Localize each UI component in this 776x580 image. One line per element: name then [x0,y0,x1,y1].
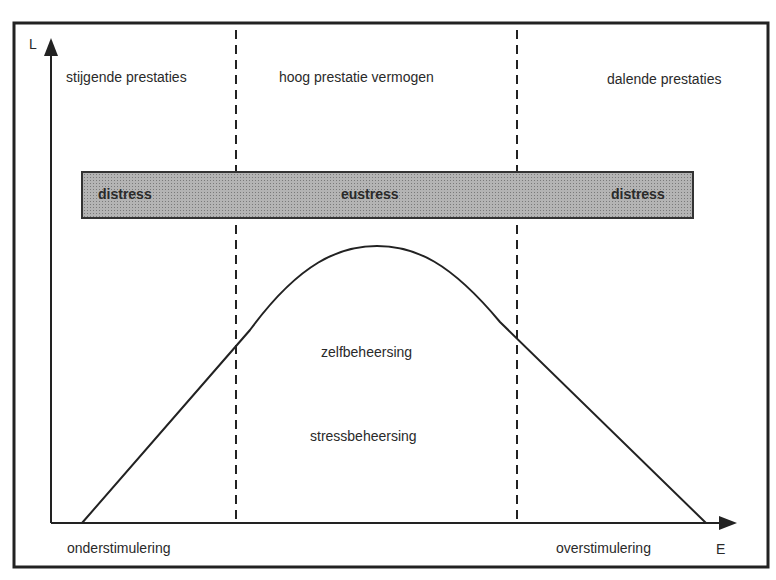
band-label-distress-right: distress [611,186,665,202]
zone-label-high: hoog prestatie vermogen [279,69,434,85]
frame-border [14,23,768,567]
diagram-canvas [0,0,776,580]
y-axis-label: L [29,36,37,52]
x-axis-arrow-icon [719,516,737,530]
x-axis-label: E [716,541,725,557]
band-label-distress-left: distress [98,186,152,202]
curve-label-selfcontrol: zelfbeheersing [321,344,412,360]
band-label-eustress: eustress [341,186,399,202]
performance-curve [82,246,706,523]
x-end-label-left: onderstimulering [67,540,171,556]
x-end-label-right: overstimulering [556,540,651,556]
curve-label-stresscontrol: stressbeheersing [310,428,417,444]
y-axis-arrow-icon [44,38,58,56]
zone-label-rising: stijgende prestaties [66,69,187,85]
zone-label-falling: dalende prestaties [607,71,721,87]
